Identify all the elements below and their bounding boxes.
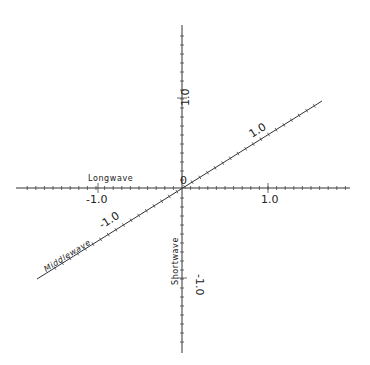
axis-diagram: 0 Longwave -1.0 1.0 1.0 -1.0 Shortwave M…: [0, 0, 370, 365]
middlewave-label: Middlewave: [42, 238, 92, 274]
longwave-neg-tick-label: -1.0: [86, 193, 107, 206]
longwave-label: Longwave: [88, 174, 133, 183]
longwave-pos-tick-label: 1.0: [261, 193, 279, 206]
shortwave-label: Shortwave: [171, 237, 180, 285]
origin-label: 0: [180, 174, 187, 187]
shortwave-pos-tick-label: 1.0: [179, 89, 192, 107]
shortwave-neg-tick-label: -1.0: [193, 274, 206, 295]
middlewave-pos-tick-label: 1.0: [247, 120, 269, 140]
